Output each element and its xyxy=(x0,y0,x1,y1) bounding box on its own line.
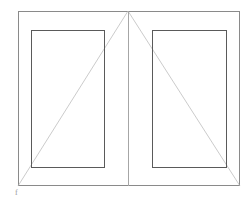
annotation-label: f xyxy=(15,189,18,197)
window-elevation-drawing: f xyxy=(0,0,248,203)
right-opening-indicator xyxy=(128,11,240,186)
left-opening-indicator xyxy=(18,11,128,186)
drawing-vector-layer xyxy=(0,0,248,203)
